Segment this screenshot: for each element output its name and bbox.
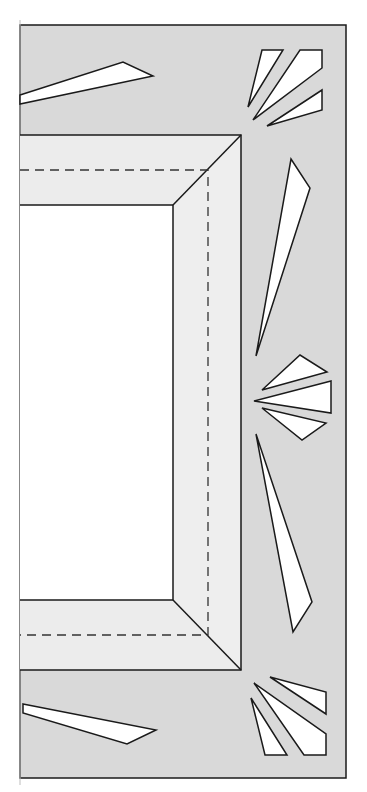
frame-pattern-diagram [0, 0, 367, 792]
window-opening [20, 205, 173, 600]
frame-right-stile [173, 135, 241, 670]
